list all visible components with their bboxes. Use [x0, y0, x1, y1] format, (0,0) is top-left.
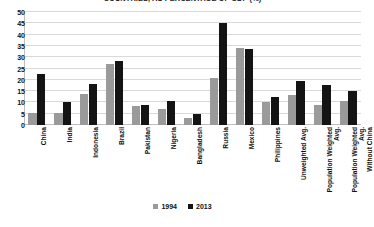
bar-group [309, 12, 335, 125]
bar-2013[interactable] [63, 102, 71, 125]
bars-layer [24, 12, 361, 125]
bar-1994[interactable] [28, 113, 36, 125]
y-tick-label-10: 10 [3, 99, 25, 106]
x-axis-label: Indonesia [92, 127, 99, 197]
plot-area [24, 12, 361, 125]
bar-1994[interactable] [236, 48, 244, 125]
x-axis-label: China [40, 127, 47, 197]
bar-1994[interactable] [314, 105, 322, 125]
chart-title: COUNTRIES, AS PERCENTAGE OF GDP (%) [0, 0, 365, 3]
bar-group [76, 12, 102, 125]
bar-1994[interactable] [340, 101, 348, 125]
bar-2013[interactable] [167, 101, 175, 125]
legend-label: 2013 [196, 203, 212, 210]
chart-legend: 19942013 [0, 203, 365, 210]
x-axis-label: Philippines [274, 127, 281, 197]
bar-2013[interactable] [348, 91, 356, 125]
y-tick-label-15: 15 [3, 88, 25, 95]
bar-group [257, 12, 283, 125]
y-tick-label-0: 0 [3, 122, 25, 129]
bar-1994[interactable] [54, 113, 62, 125]
x-axis-label: Russia [222, 127, 229, 197]
bar-2013[interactable] [37, 74, 45, 125]
bar-1994[interactable] [80, 94, 88, 125]
y-tick-label-30: 30 [3, 54, 25, 61]
bar-2013[interactable] [193, 114, 201, 125]
bar-1994[interactable] [132, 106, 140, 125]
bar-2013[interactable] [219, 23, 227, 125]
y-tick-label-45: 45 [3, 20, 25, 27]
x-axis-label: Unweighted Avg. [300, 127, 307, 197]
bar-group [231, 12, 257, 125]
x-axis-label: Bangladesh [196, 127, 203, 197]
bar-1994[interactable] [106, 64, 114, 125]
x-axis-label: Brazil [118, 127, 125, 197]
bar-2013[interactable] [141, 105, 149, 125]
bar-group [335, 12, 361, 125]
bar-2013[interactable] [271, 97, 279, 125]
bar-2013[interactable] [115, 61, 123, 125]
bar-1994[interactable] [158, 109, 166, 125]
x-axis-label: Population Weighted Avg. [326, 127, 341, 197]
bar-2013[interactable] [322, 85, 330, 125]
x-axis-label: India [66, 127, 73, 197]
y-tick-label-25: 25 [3, 65, 25, 72]
legend-item-2013[interactable]: 2013 [188, 203, 212, 210]
legend-swatch-icon [188, 204, 193, 209]
bar-group [154, 12, 180, 125]
x-axis-labels: ChinaIndiaIndonesiaBrazilPakistanNigeria… [24, 127, 361, 199]
legend-swatch-icon [153, 204, 158, 209]
bar-group [50, 12, 76, 125]
bar-group [180, 12, 206, 125]
bar-2013[interactable] [296, 81, 304, 125]
legend-label: 1994 [161, 203, 177, 210]
y-tick-label-40: 40 [3, 31, 25, 38]
x-axis-label: Mexico [248, 127, 255, 197]
x-axis-label: Pakistan [144, 127, 151, 197]
y-tick-label-35: 35 [3, 42, 25, 49]
y-tick-label-5: 5 [3, 110, 25, 117]
y-tick-label-20: 20 [3, 76, 25, 83]
bar-2013[interactable] [245, 49, 253, 125]
bar-1994[interactable] [262, 102, 270, 125]
y-tick-label-50: 50 [3, 9, 25, 16]
bar-group [24, 12, 50, 125]
x-axis-label: Population Weighted Avg. Without China [351, 127, 373, 197]
bar-group [283, 12, 309, 125]
x-axis-label: Nigeria [170, 127, 177, 197]
legend-item-1994[interactable]: 1994 [153, 203, 177, 210]
bar-1994[interactable] [184, 118, 192, 125]
bar-1994[interactable] [288, 95, 296, 126]
bar-2013[interactable] [89, 84, 97, 125]
bar-group [205, 12, 231, 125]
bar-1994[interactable] [210, 78, 218, 125]
bar-group [128, 12, 154, 125]
bar-group [102, 12, 128, 125]
